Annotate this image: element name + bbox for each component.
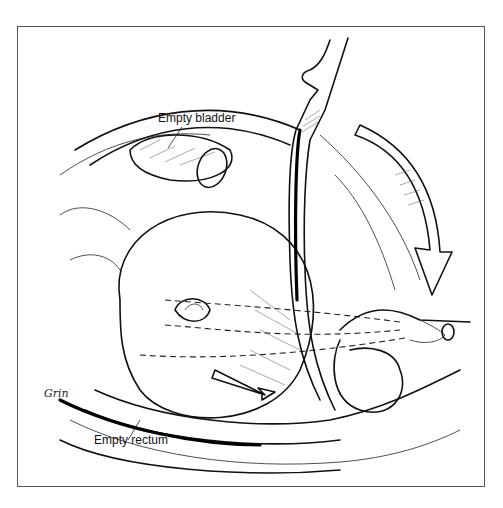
pelvic-illustration: Grin: [0, 0, 503, 508]
direction-arrow: [355, 125, 452, 295]
label-empty-bladder: Empty bladder: [158, 111, 235, 125]
uterus: [119, 212, 314, 418]
pubic-bone: [192, 144, 232, 191]
cervix: [175, 299, 210, 322]
bladder-shape: [130, 135, 232, 181]
label-empty-rectum: Empty rectum: [94, 433, 168, 447]
instrument-path-1: [165, 325, 400, 334]
artist-signature: Grin: [44, 387, 69, 400]
